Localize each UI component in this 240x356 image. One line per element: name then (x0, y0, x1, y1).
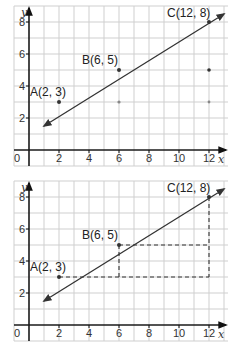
origin-label: 0 (14, 327, 20, 339)
x-tick-6: 6 (116, 327, 122, 339)
x-tick-8: 8 (146, 327, 152, 339)
label-c: C(12, 8) (167, 181, 210, 195)
coordinate-grid-1: y x 0 8 6 4 2 2 4 6 8 10 12 A(2, 3) B(6,… (0, 0, 240, 175)
x-axis-label: x (218, 153, 225, 166)
point-c (207, 195, 211, 199)
y-tick-2: 2 (19, 112, 25, 124)
graph-panel-1: y x 0 8 6 4 2 2 4 6 8 10 12 A(2, 3) B(6,… (0, 0, 240, 175)
x-tick-4: 4 (86, 152, 92, 164)
x-tick-2: 2 (56, 152, 62, 164)
label-c: C(12, 8) (167, 6, 210, 20)
coordinate-grid-2: y x 0 8 6 4 2 2 4 6 8 10 12 A(2, 3) B(6,… (0, 175, 240, 350)
point-c (207, 20, 211, 24)
x-tick-4: 4 (86, 327, 92, 339)
y-tick-2: 2 (19, 287, 25, 299)
x-tick-12: 12 (203, 152, 215, 164)
y-tick-8: 8 (19, 191, 25, 203)
label-b: B(6, 5) (82, 228, 118, 242)
point-a (57, 100, 61, 104)
x-tick-2: 2 (56, 327, 62, 339)
y-tick-4: 4 (19, 80, 25, 92)
y-tick-6: 6 (19, 223, 25, 235)
y-tick-8: 8 (19, 16, 25, 28)
label-a: A(2, 3) (30, 260, 66, 274)
point-12-3 (208, 101, 211, 104)
graph-panel-2: y x 0 8 6 4 2 2 4 6 8 10 12 A(2, 3) B(6,… (0, 175, 240, 350)
origin-label: 0 (14, 152, 20, 164)
point-12-5 (207, 68, 211, 72)
x-tick-6: 6 (116, 152, 122, 164)
label-a: A(2, 3) (30, 85, 66, 99)
y-tick-6: 6 (19, 48, 25, 60)
y-tick-4: 4 (19, 255, 25, 267)
x-tick-10: 10 (173, 152, 185, 164)
label-b: B(6, 5) (82, 53, 118, 67)
point-b (117, 243, 121, 247)
x-tick-8: 8 (146, 152, 152, 164)
x-tick-12: 12 (203, 327, 215, 339)
x-tick-10: 10 (173, 327, 185, 339)
point-a (57, 275, 61, 279)
x-axis-label: x (218, 328, 225, 341)
point-6-3 (117, 100, 120, 103)
point-b (117, 68, 121, 72)
